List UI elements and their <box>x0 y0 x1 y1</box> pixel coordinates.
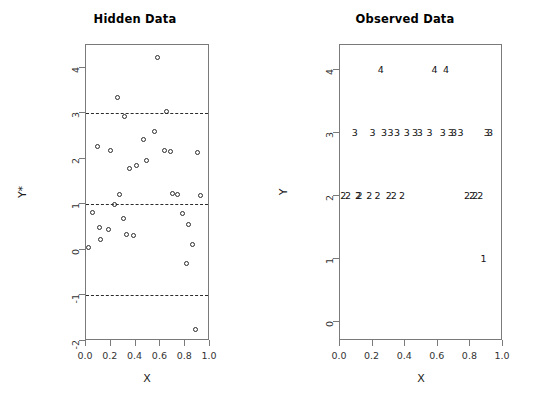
data-label: 3 <box>417 128 423 138</box>
data-label: 3 <box>458 128 464 138</box>
x-tick-label: 0.2 <box>364 350 379 361</box>
x-tick-label: 0.4 <box>397 350 412 361</box>
data-point <box>86 245 91 250</box>
data-label: 3 <box>451 128 457 138</box>
data-point <box>108 148 113 153</box>
data-label: 2 <box>399 191 405 201</box>
x-tick <box>184 340 185 346</box>
data-point <box>175 192 180 197</box>
y-tick-label: 1 <box>324 258 335 264</box>
y-tick-label: -1 <box>70 294 81 303</box>
y-tick-label: 2 <box>324 195 335 201</box>
data-point <box>121 216 126 221</box>
data-point <box>168 149 173 154</box>
panel-title-observed-data: Observed Data <box>270 12 540 26</box>
data-label: 3 <box>370 128 376 138</box>
y-tick-label: 0 <box>324 321 335 327</box>
data-point <box>155 55 160 60</box>
data-point <box>106 227 111 232</box>
data-point <box>190 242 195 247</box>
data-label: 3 <box>440 128 446 138</box>
x-tick <box>404 340 405 346</box>
data-label: 3 <box>404 128 410 138</box>
x-tick-label: 0.8 <box>177 350 192 361</box>
x-axis-title-right: X <box>417 372 425 385</box>
y-tick-label: 0 <box>70 249 81 255</box>
x-tick-label: 1.0 <box>494 350 509 361</box>
data-label: 4 <box>443 65 449 75</box>
data-label: 3 <box>352 128 358 138</box>
x-tick <box>110 340 111 346</box>
data-point <box>141 137 146 142</box>
data-point <box>95 144 100 149</box>
y-tick-label: 3 <box>70 112 81 118</box>
y-tick-label: 4 <box>324 69 335 75</box>
data-point <box>186 222 191 227</box>
data-label: 2 <box>345 191 351 201</box>
plot-area-observed-data: 22322232432323233334343332222133 <box>339 44 502 340</box>
data-point <box>144 158 149 163</box>
x-tick <box>469 340 470 346</box>
y-axis-title-right: Y <box>277 189 290 196</box>
panel-observed-data: Observed Data 22322232432323233334343332… <box>270 0 540 405</box>
data-label: 3 <box>487 128 493 138</box>
data-label: 3 <box>394 128 400 138</box>
data-layer-hidden-data <box>86 45 208 339</box>
x-tick-label: 1.0 <box>201 350 216 361</box>
data-point <box>134 163 139 168</box>
data-point <box>124 232 129 237</box>
data-point <box>117 192 122 197</box>
data-label: 2 <box>391 191 397 201</box>
y-tick-label: 4 <box>70 67 81 73</box>
y-tick-label: 2 <box>70 158 81 164</box>
data-label: 2 <box>366 191 372 201</box>
data-label: 4 <box>378 65 384 75</box>
plot-area-hidden-data <box>85 44 209 340</box>
data-point <box>98 237 103 242</box>
x-tick-label: 0.6 <box>429 350 444 361</box>
data-point <box>193 327 198 332</box>
x-tick <box>135 340 136 346</box>
data-point <box>127 166 132 171</box>
data-label: 3 <box>381 128 387 138</box>
data-point <box>152 129 157 134</box>
threshold-line-2 <box>86 113 208 114</box>
data-point <box>115 95 120 100</box>
data-point <box>195 150 200 155</box>
data-point <box>112 202 117 207</box>
x-tick-label: 0.6 <box>152 350 167 361</box>
data-label: 3 <box>387 128 393 138</box>
panel-title-hidden-data: Hidden Data <box>0 12 270 26</box>
threshold-line-0 <box>86 295 208 296</box>
x-tick <box>372 340 373 346</box>
x-tick <box>85 340 86 346</box>
data-point <box>162 148 167 153</box>
data-label: 3 <box>427 128 433 138</box>
data-label: 2 <box>477 191 483 201</box>
data-point <box>180 211 185 216</box>
data-layer-observed-data: 22322232432323233334343332222133 <box>340 45 501 339</box>
y-tick-label: -2 <box>70 340 81 349</box>
threshold-line-1 <box>86 204 208 205</box>
data-point <box>198 193 203 198</box>
data-label: 1 <box>480 254 486 264</box>
x-tick <box>209 340 210 346</box>
x-tick-label: 0.0 <box>331 350 346 361</box>
x-tick-label: 0.2 <box>102 350 117 361</box>
data-label: 2 <box>357 191 363 201</box>
x-tick-label: 0.4 <box>127 350 142 361</box>
y-axis-title-left: Y* <box>16 186 29 198</box>
y-tick-label: 3 <box>324 132 335 138</box>
data-point <box>97 225 102 230</box>
x-tick <box>339 340 340 346</box>
data-point <box>184 261 189 266</box>
data-point <box>131 233 136 238</box>
x-tick <box>159 340 160 346</box>
data-label: 2 <box>374 191 380 201</box>
data-label: 4 <box>432 65 438 75</box>
data-point <box>122 114 127 119</box>
panel-hidden-data: Hidden Data -2-1012340.00.20.40.60.81.0 … <box>0 0 270 405</box>
x-tick <box>437 340 438 346</box>
y-tick-label: 1 <box>70 203 81 209</box>
data-point <box>90 210 95 215</box>
